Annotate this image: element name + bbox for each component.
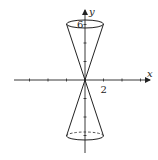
x-tick-label-2: 2 — [101, 84, 107, 95]
lower-cone-left-edge — [67, 80, 86, 136]
y-axis-label: y — [88, 6, 95, 17]
upper-cone-left-edge — [67, 24, 86, 80]
x-axis-label: x — [147, 68, 153, 79]
cone-apex — [84, 79, 86, 81]
x-axis: x 2 — [14, 68, 153, 95]
double-cone-diagram: x 2 y 6 — [0, 0, 158, 160]
upper-cone-right-edge — [85, 24, 104, 80]
